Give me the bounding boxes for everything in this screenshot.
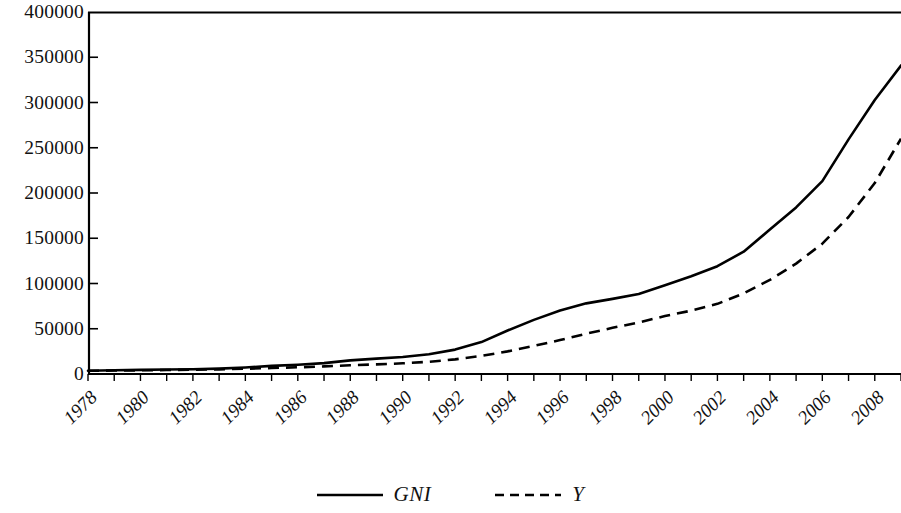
x-axis-tick-label: 2006 <box>794 387 834 427</box>
legend-swatch-solid-icon <box>317 489 383 501</box>
x-axis-tick-label: 2002 <box>689 387 729 427</box>
x-axis-tick-label: 1990 <box>375 387 415 427</box>
legend-item-gni: GNI <box>317 484 432 505</box>
legend-label-gni: GNI <box>394 484 432 505</box>
x-axis-tick-label: 2000 <box>637 387 677 427</box>
x-axis-tick-label: 1986 <box>270 387 310 427</box>
chart-figure: 0500001000001500002000002500003000003500… <box>0 0 901 513</box>
legend-item-y: Y <box>495 484 584 505</box>
x-axis-tick-label: 1984 <box>217 387 257 427</box>
x-axis-tick-label: 1994 <box>480 387 520 427</box>
x-axis-tick-label: 1980 <box>112 387 152 427</box>
x-axis-tick-label: 1992 <box>427 387 467 427</box>
x-axis-tick-labels: 1978198019821984198619881990199219941996… <box>0 0 901 513</box>
x-axis-tick-label: 1982 <box>165 387 205 427</box>
legend-swatch-dashed-icon <box>495 489 561 501</box>
x-axis-tick-label: 2008 <box>847 387 887 427</box>
x-axis-tick-label: 1978 <box>60 387 100 427</box>
x-axis-tick-label: 1988 <box>322 387 362 427</box>
legend-label-y: Y <box>572 484 584 505</box>
chart-legend: GNI Y <box>0 476 901 513</box>
x-axis-tick-label: 2004 <box>742 387 782 427</box>
x-axis-tick-label: 1998 <box>585 387 625 427</box>
x-axis-tick-label: 1996 <box>532 387 572 427</box>
